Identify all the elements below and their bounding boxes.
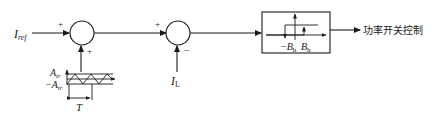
junction1-plus-left: + bbox=[58, 19, 63, 29]
output-label: 功率开关控制 bbox=[363, 24, 423, 36]
hysteresis-current-control-diagram: Iref + + Atr −Atr T + − IL −Bh Bh bbox=[0, 0, 434, 115]
hysteresis-curve bbox=[266, 14, 326, 40]
period-label: T bbox=[76, 101, 83, 113]
junction1-plus-bottom: + bbox=[87, 46, 92, 56]
svg-text:IL: IL bbox=[170, 74, 180, 89]
iref-label: Iref bbox=[13, 27, 28, 42]
pos-band-label: Bh bbox=[301, 41, 311, 54]
summing-junction-2 bbox=[166, 21, 190, 45]
junction2-minus-bottom: − bbox=[184, 45, 190, 56]
triangle-carrier-graphic bbox=[67, 70, 115, 100]
svg-text:Iref: Iref bbox=[13, 27, 28, 42]
neg-band-label: −Bh bbox=[280, 41, 297, 54]
summing-junction-1 bbox=[70, 21, 94, 45]
il-label: IL bbox=[170, 74, 180, 89]
amp-neg-label: −Atr bbox=[45, 79, 63, 92]
junction2-plus-left: + bbox=[155, 19, 160, 29]
